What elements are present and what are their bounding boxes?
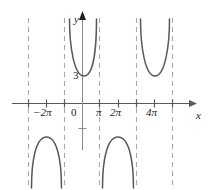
x-tick-label-pi: π — [96, 107, 102, 118]
y-axis-arrowhead — [79, 11, 86, 20]
branch-down-left — [32, 137, 62, 188]
y-axis-label: y — [74, 14, 79, 25]
x-axis-label: x — [196, 110, 201, 121]
branch-down-right — [103, 137, 134, 188]
x-tick-label-2pi: 2π — [110, 107, 121, 118]
y-value-three-label: 3 — [73, 70, 79, 81]
x-tick-label-4pi: 4π — [146, 107, 157, 118]
y-axis — [79, 11, 87, 150]
origin-label: 0 — [71, 107, 77, 118]
branch-up-right — [141, 19, 170, 76]
x-tick-label-neg-2pi: −2π — [33, 107, 51, 118]
x-axis-arrowhead — [189, 100, 197, 107]
graph-figure: y x 0 3 −2π π 2π 4π — [0, 0, 211, 190]
plot-canvas — [0, 0, 211, 190]
